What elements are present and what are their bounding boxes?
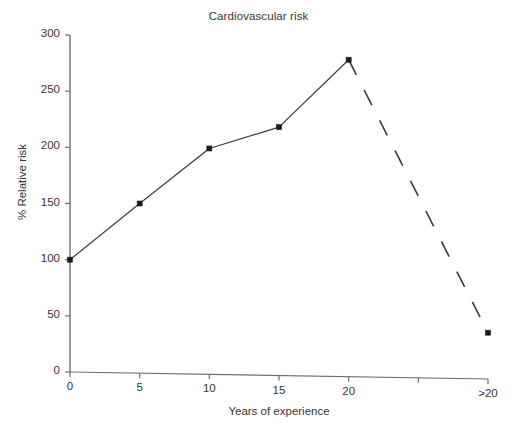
cardiovascular-risk-chart: Cardiovascular risk % Relative risk Year… bbox=[0, 0, 517, 431]
axis-ticks bbox=[65, 35, 488, 384]
data-markers bbox=[68, 57, 491, 335]
plot-area bbox=[0, 0, 517, 431]
data-line bbox=[70, 60, 488, 333]
axis-lines bbox=[70, 35, 488, 379]
